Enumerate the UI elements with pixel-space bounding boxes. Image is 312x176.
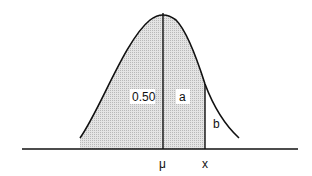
middle-area-label: a [179,90,186,104]
mean-label: μ [159,157,166,171]
normal-curve-diagram: 0.50 a b μ x [0,0,312,176]
left-area-label: 0.50 [132,90,156,104]
x-value-label: x [202,157,208,171]
tail-area-label: b [213,117,220,131]
